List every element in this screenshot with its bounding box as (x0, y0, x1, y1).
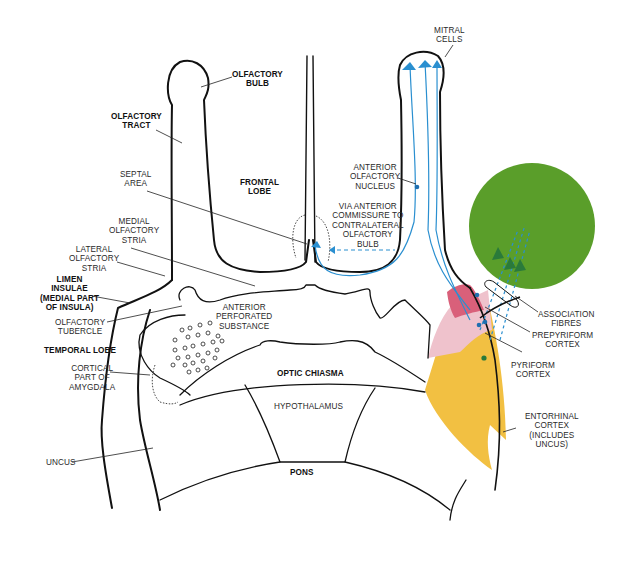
anterior-olfactory-nucleus-cell (415, 185, 420, 190)
pyriform-cell-1 (477, 323, 482, 328)
pyriform-cell-2 (483, 320, 488, 325)
label-association-fibres: ASSOCIATIONFIBRES (538, 310, 594, 329)
label-lateral-olfactory-stria: LATERALOLFACTORYSTRIA (69, 245, 119, 273)
label-olfactory-tubercle: OLFACTORYTUBERCLE (55, 318, 105, 337)
label-via-anterior-commissure: VIA ANTERIORCOMMISSURE TOCONTRALATERALOL… (332, 202, 404, 249)
label-pyriform-cortex: PYRIFORMCORTEX (511, 361, 555, 380)
entorhinal-cell (481, 355, 486, 360)
label-entorhinal-cortex: ENTORHINALCORTEX(INCLUDESUNCUS) (525, 412, 579, 450)
mitral-arrow-2 (418, 60, 432, 68)
label-septal-area: SEPTALAREA (120, 170, 151, 189)
label-prepyriform-cortex: PREPYRIFORMCORTEX (532, 331, 593, 350)
label-mitral-cells: MITRALCELLS (434, 26, 465, 45)
label-olfactory-bulb: OLFACTORYBULB (232, 70, 283, 89)
label-uncus: UNCUS (46, 458, 76, 467)
label-anterior-olfactory-nucleus: ANTERIOROLFACTORYNUCLEUS (350, 163, 400, 191)
label-cortical-amygdala: CORTICALPART OFAMYGDALA (69, 364, 115, 392)
label-anterior-perforated-substance: ANTERIORPERFORATEDSUBSTANCE (216, 303, 272, 331)
hypothalamus-sides (245, 385, 375, 462)
label-temporal-lobe: TEMPORAL LOBE (44, 346, 116, 355)
olfactory-tubercle-outline (139, 315, 190, 395)
left-olfactory-bulb-outline (168, 61, 309, 280)
label-frontal-lobe: FRONTALLOBE (240, 178, 279, 197)
prepyriform-cell (475, 293, 480, 298)
label-olfactory-tract: OLFACTORYTRACT (111, 112, 162, 131)
left-temporal-outline (102, 280, 172, 508)
label-limen-insulae: LIMENINSULAE(MEDIAL PARTOF INSULA) (40, 275, 99, 313)
label-hypothalamus: HYPOTHALAMUS (274, 402, 343, 411)
left-uncus-outline (138, 310, 160, 510)
midline-fissure (305, 56, 315, 262)
septal-area-dotted-outline (293, 215, 330, 262)
label-medial-olfactory-stria: MEDIALOLFACTORYSTRIA (109, 217, 159, 245)
label-optic-chiasma: OPTIC CHIASMA (277, 369, 344, 378)
neocortex-circle (469, 163, 595, 289)
right-uncus-outline (450, 480, 466, 520)
mitral-arrow-1 (402, 62, 416, 70)
label-pons: PONS (290, 468, 314, 477)
